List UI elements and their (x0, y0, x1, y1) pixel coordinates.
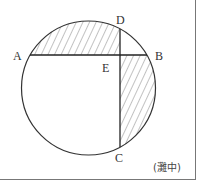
label-a: A (13, 50, 22, 62)
label-d: D (116, 14, 125, 26)
label-b: B (155, 50, 163, 62)
shaded-region-right (120, 55, 160, 155)
circle-chord-diagram (0, 0, 204, 188)
source-label: (灘中) (153, 162, 181, 174)
frame-border-right (195, 0, 196, 180)
diagram-frame: A B C D E (灘中) (0, 0, 204, 188)
label-e: E (102, 62, 109, 74)
label-c: C (115, 152, 123, 164)
frame-border-bottom (0, 179, 196, 180)
shaded-region-top (20, 20, 120, 55)
